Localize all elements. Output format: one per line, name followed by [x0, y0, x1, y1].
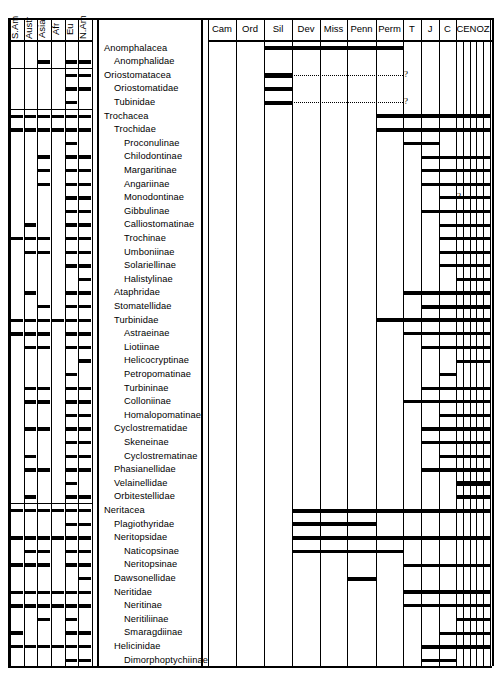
taxon-label: Anomphalacea	[104, 44, 167, 53]
region-presence-mark	[38, 550, 50, 553]
region-presence-mark	[11, 645, 23, 648]
region-presence-mark	[66, 441, 78, 444]
region-column-separator	[92, 18, 93, 666]
region-presence-mark	[79, 332, 91, 335]
region-presence-mark	[38, 251, 50, 254]
region-presence-mark	[66, 523, 78, 526]
taxon-range-bar	[456, 481, 490, 485]
taxon-label: Anomphalidae	[114, 57, 175, 66]
region-presence-mark	[66, 115, 78, 118]
region-presence-mark	[25, 387, 37, 390]
region-presence-mark	[38, 645, 50, 648]
taxon-label: Neritiliinae	[124, 615, 169, 624]
region-presence-mark	[25, 128, 37, 131]
taxon-label: Neritinae	[124, 601, 162, 610]
region-presence-mark	[66, 618, 78, 621]
region-presence-mark	[38, 400, 50, 403]
region-presence-mark	[52, 536, 64, 539]
taxon-label: Proconulinae	[124, 139, 179, 148]
region-presence-mark	[79, 563, 91, 566]
period-column-separator	[421, 18, 422, 666]
period-column-separator	[292, 18, 293, 666]
region-presence-mark	[79, 509, 91, 512]
region-presence-mark	[38, 319, 50, 322]
region-presence-mark	[25, 495, 37, 498]
region-presence-mark	[79, 237, 91, 240]
taxon-label: Calliostomatinae	[124, 220, 194, 229]
region-presence-mark	[38, 346, 50, 349]
period-header-ord: Ord	[236, 24, 264, 34]
region-presence-mark	[52, 128, 64, 131]
taxon-label: Neritidae	[114, 588, 152, 597]
taxon-label: Neritopsidae	[114, 533, 167, 542]
group-gap-rule	[8, 68, 92, 69]
region-presence-mark	[66, 427, 78, 430]
period-header-baseline	[208, 40, 492, 42]
cenoz-subdivision-line	[483, 40, 484, 666]
taxon-range-bar	[376, 114, 490, 118]
region-presence-mark	[79, 60, 91, 63]
period-header-miss: Miss	[320, 24, 347, 34]
region-presence-mark	[66, 604, 78, 607]
region-presence-mark	[38, 591, 50, 594]
region-presence-mark	[79, 591, 91, 594]
region-presence-mark	[66, 305, 78, 308]
region-presence-mark	[66, 468, 78, 471]
region-presence-mark	[79, 305, 91, 308]
region-presence-mark	[66, 387, 78, 390]
taxon-label: Helicocryptinae	[124, 356, 189, 365]
region-presence-mark	[79, 577, 91, 580]
region-presence-mark	[66, 591, 78, 594]
region-presence-mark	[25, 468, 37, 471]
region-presence-mark	[25, 550, 37, 553]
taxon-range-bar	[264, 46, 403, 50]
taxon-range-bar	[456, 278, 490, 281]
region-presence-mark	[66, 223, 78, 226]
region-presence-mark	[79, 455, 91, 458]
region-presence-mark	[66, 509, 78, 512]
region-presence-mark	[38, 115, 50, 118]
region-presence-mark	[52, 591, 64, 594]
region-presence-mark	[79, 427, 91, 430]
region-presence-mark	[38, 604, 50, 607]
region-presence-mark	[38, 536, 50, 539]
taxon-range-bar	[264, 101, 292, 105]
taxon-label: Monodontinae	[124, 193, 184, 202]
region-presence-mark	[11, 115, 23, 118]
region-presence-mark	[66, 659, 78, 662]
region-presence-mark	[38, 60, 50, 63]
taxon-label: Halistylinae	[124, 275, 173, 284]
region-presence-mark	[79, 291, 91, 294]
taxon-label: Colloniinae	[124, 397, 171, 406]
region-presence-mark	[11, 509, 23, 512]
region-presence-mark	[66, 455, 78, 458]
taxon-label: Oriostomatidae	[114, 84, 178, 93]
taxon-label: Plagiothyridae	[114, 520, 174, 529]
region-presence-mark	[38, 305, 50, 308]
period-column-separator	[347, 18, 348, 666]
region-name-divider	[97, 18, 99, 666]
region-presence-mark	[66, 87, 78, 90]
taxon-label: Chilodontinae	[124, 152, 182, 161]
region-presence-mark	[79, 319, 91, 322]
period-column-separator	[439, 18, 440, 666]
period-column-separator	[236, 18, 237, 666]
taxon-range-bar	[439, 373, 456, 376]
region-presence-mark	[79, 346, 91, 349]
region-presence-mark	[66, 251, 78, 254]
uncertainty-question-mark: ?	[457, 192, 461, 201]
region-column-separator	[10, 18, 11, 666]
region-presence-mark	[66, 645, 78, 648]
region-presence-mark	[66, 319, 78, 322]
region-presence-mark	[79, 278, 91, 281]
region-presence-mark	[38, 427, 50, 430]
cenoz-subdivision-line	[470, 40, 471, 666]
region-presence-mark	[79, 264, 91, 267]
period-column-separator	[490, 18, 491, 666]
period-column-separator	[376, 18, 377, 666]
uncertainty-question-mark: ?	[404, 70, 408, 79]
region-column-separator	[24, 18, 25, 666]
region-presence-mark	[25, 291, 37, 294]
region-column-separator	[51, 18, 52, 666]
region-presence-mark	[79, 536, 91, 539]
